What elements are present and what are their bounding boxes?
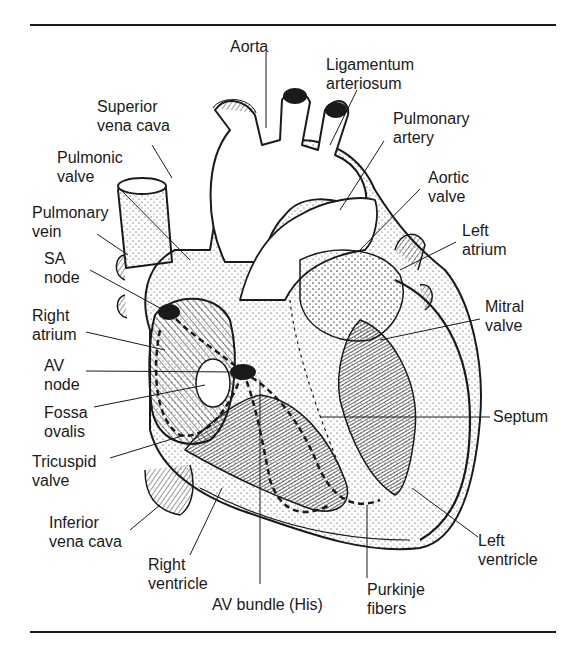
- heart-drawing: [116, 89, 481, 549]
- label-left-ventricle: Left ventricle: [478, 531, 538, 569]
- label-tricuspid-valve: Tricuspid valve: [32, 452, 96, 490]
- label-sa-node: SA node: [44, 249, 80, 287]
- label-right-atrium: Right atrium: [32, 306, 76, 344]
- label-inferior-vena-cava: Inferior vena cava: [49, 513, 122, 551]
- label-aortic-valve: Aortic valve: [428, 168, 469, 206]
- label-av-node: AV node: [44, 356, 80, 394]
- label-pulmonary-vein: Pulmonary vein: [32, 203, 108, 241]
- label-ligamentum-arteriosum: Ligamentum arteriosum: [326, 55, 414, 93]
- label-mitral-valve: Mitral valve: [485, 297, 524, 335]
- label-av-bundle: AV bundle (His): [212, 595, 323, 614]
- label-right-ventricle: Right ventricle: [148, 555, 208, 593]
- label-left-atrium: Left atrium: [462, 221, 506, 259]
- label-pulmonary-artery: Pulmonary artery: [393, 109, 469, 147]
- label-fossa-ovalis: Fossa ovalis: [44, 403, 88, 441]
- label-septum: Septum: [493, 407, 548, 426]
- label-superior-vena-cava: Superior vena cava: [97, 97, 170, 135]
- label-pulmonic-valve: Pulmonic valve: [57, 148, 123, 186]
- inferior-vena-cava-shape: [145, 465, 193, 515]
- label-aorta: Aorta: [230, 37, 268, 56]
- label-purkinje-fibers: Purkinje fibers: [367, 580, 425, 618]
